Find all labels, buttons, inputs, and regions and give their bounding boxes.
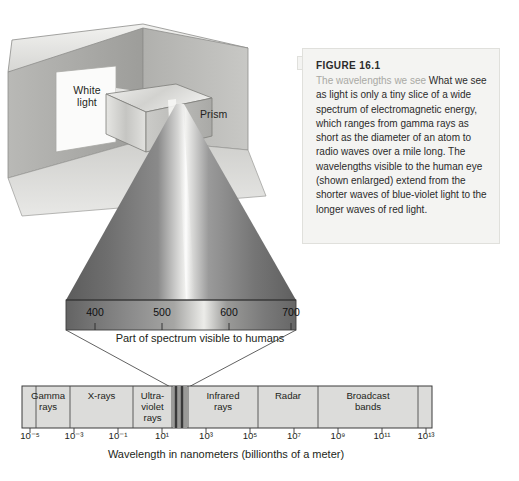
- white-light-label: White light: [63, 84, 111, 108]
- em-tick-6: 10⁵: [237, 430, 263, 441]
- visible-tick-600: 600: [214, 306, 244, 318]
- em-band-gamma-rays: Gamma rays: [26, 390, 70, 412]
- em-tick-8: 10⁹: [325, 430, 351, 441]
- figure-caption-text: The wavelengths we see What we see as li…: [316, 74, 487, 217]
- visible-tick-400: 400: [80, 306, 110, 318]
- em-spectrum-chart: Gamma rays X-rays Ultra- violet rays Inf…: [0, 384, 519, 481]
- em-band-infrared-rays: Infrared rays: [188, 390, 258, 412]
- prism-label: Prism: [200, 108, 240, 120]
- em-axis-ticks: [30, 428, 426, 433]
- figure-caption-box: FIGURE 16.1 The wavelengths we see What …: [302, 48, 500, 244]
- em-tick-5: 10³: [193, 430, 219, 441]
- figure-caption-lead: The wavelengths we see: [316, 75, 426, 86]
- em-tick-7: 10⁷: [281, 430, 307, 441]
- visible-tick-500: 500: [147, 306, 177, 318]
- em-band-ultraviolet-rays: Ultra- violet rays: [133, 390, 172, 423]
- axis-title: Wavelength in nanometers (billionths of …: [0, 448, 452, 460]
- em-tick-2: 10⁻³: [61, 430, 87, 441]
- figure-number: FIGURE 16.1: [316, 60, 487, 71]
- em-band-broadcast-bands: Broadcast bands: [318, 390, 418, 412]
- em-band-radar: Radar: [258, 390, 318, 401]
- em-tick-9: 10¹¹: [369, 430, 395, 441]
- em-band-x-rays: X-rays: [70, 390, 133, 401]
- figure-caption-body: What we see as light is only a tiny slic…: [316, 75, 487, 215]
- em-tick-1: 10⁻⁵: [17, 430, 43, 441]
- figure-root: White light Prism 400 500 600 700 Part o…: [0, 0, 519, 481]
- visible-tick-700: 700: [276, 306, 306, 318]
- em-tick-3: 10⁻¹: [105, 430, 131, 441]
- visible-spectrum-caption: Part of spectrum visible to humans: [110, 332, 290, 346]
- em-tick-10: 10¹³: [413, 430, 439, 441]
- em-tick-4: 10¹: [149, 430, 175, 441]
